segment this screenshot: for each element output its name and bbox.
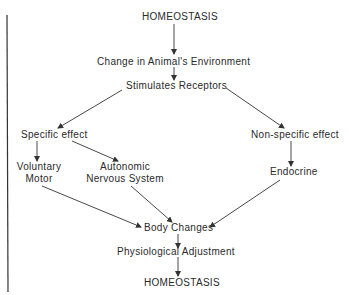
node-autonomic-nervous-system: Autonomic Nervous System [86,161,164,185]
arrow-autonomic-to-body [131,186,172,222]
node-change-environment: Change in Animal's Environment [97,56,250,68]
node-body-changes: Body Changes [144,222,213,234]
node-physiological-adjustment: Physiological Adjustment [117,246,235,258]
voluntary-motor-line2: Motor [15,173,63,185]
left-margin-rule [7,15,8,292]
arrow-stimulates-to-specific [58,90,122,128]
node-homeostasis-bottom: HOMEOSTASIS [144,277,220,289]
node-voluntary-motor: Voluntary Motor [15,161,63,185]
arrow-specific-to-autonomic [72,141,118,161]
voluntary-motor-line1: Voluntary [15,161,63,173]
arrow-voluntary-to-body [42,186,141,227]
autonomic-line2: Nervous System [86,173,164,185]
node-specific-effect: Specific effect [21,129,88,141]
node-non-specific-effect: Non-specific effect [251,129,339,141]
arrow-endocrine-to-body [210,180,280,227]
node-homeostasis-top: HOMEOSTASIS [142,11,218,23]
node-endocrine: Endocrine [270,166,318,178]
arrow-stimulates-to-nonspecific [226,88,284,128]
autonomic-line1: Autonomic [86,161,164,173]
node-stimulates-receptors: Stimulates Receptors [126,80,227,92]
